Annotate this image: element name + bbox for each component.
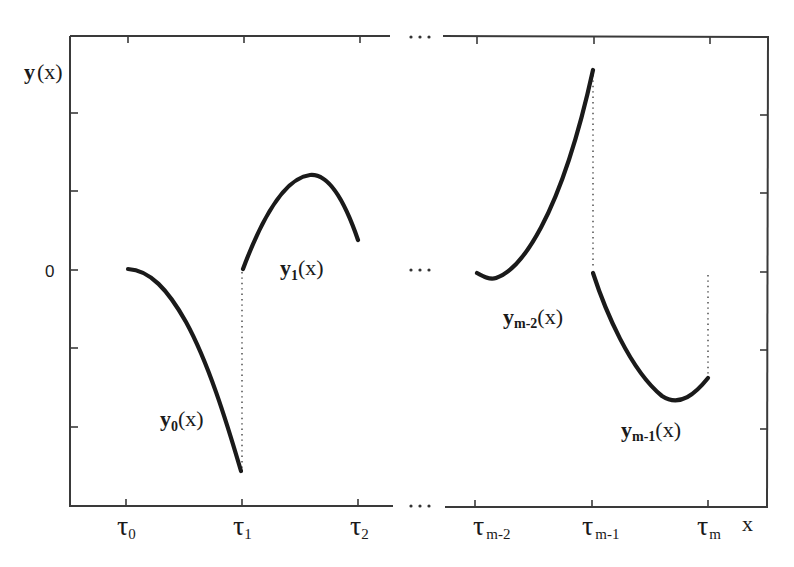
curve-ym-2	[477, 70, 593, 279]
curve-ym-1	[593, 273, 708, 400]
y-zero-label: 0	[45, 262, 54, 281]
tick-label-tau-m: τm	[697, 510, 721, 542]
axis-break-ellipsis-top	[409, 35, 430, 38]
left-y-ticks	[70, 113, 78, 427]
x-axis-label: x	[742, 511, 753, 536]
axis-break-ellipsis-bottom	[409, 504, 430, 507]
x-tick-labels: τ0 τ1 τ2 τm-2 τm-1 τm	[117, 510, 721, 542]
y-axis-label: y(x)	[24, 59, 63, 84]
tick-label-tau-m-1: τm-1	[582, 510, 619, 542]
curve-label-y1: y1(x)	[280, 255, 324, 283]
tick-label-tau0: τ0	[117, 510, 136, 542]
right-panel-frame	[443, 36, 768, 508]
tick-label-tau1: τ1	[233, 510, 252, 542]
curve-label-ym-1: ym-1(x)	[621, 417, 681, 444]
curve-y0	[128, 269, 241, 471]
tick-label-tau2: τ2	[350, 510, 369, 542]
tick-label-tau-m-2: τm-2	[473, 510, 510, 542]
curve-label-y0: y0(x)	[160, 406, 204, 434]
curve-label-ym-2: ym-2(x)	[503, 304, 563, 331]
multiple-shooting-diagram: y(x) 0 x τ0 τ1 τ2 τm-2 τm-1 τm y0(x) y1(…	[0, 0, 794, 567]
axis-break-ellipsis-middle	[409, 268, 430, 271]
